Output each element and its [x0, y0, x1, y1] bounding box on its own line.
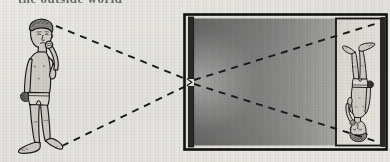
caption-strip: the outside world [0, 0, 390, 9]
box-front-wall-lower [189, 86, 194, 147]
ray-feet-outside [62, 85, 188, 146]
projected-hand-at-chin [350, 120, 355, 125]
box-light-glow [192, 19, 336, 146]
subject-leg-left [30, 105, 40, 144]
box-right-edge [381, 17, 385, 147]
caption-top-text: the outside world [18, 0, 123, 7]
subject-foot-left [18, 142, 40, 153]
box-front-wall-upper [189, 17, 194, 79]
subject-leg-right [41, 105, 50, 142]
ray-head-outside [56, 26, 188, 80]
camera-obscura-box [185, 15, 387, 150]
subject-hand-at-chin [46, 41, 53, 48]
scene-illustration [0, 0, 390, 162]
pinhole-camera-figure: the outside world [0, 0, 390, 162]
subject-foot-right [45, 138, 62, 149]
subject-boy-outside [18, 19, 62, 153]
